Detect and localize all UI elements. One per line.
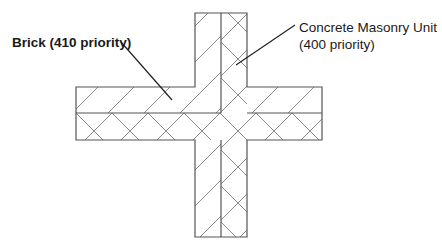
cmu-label-line1: Concrete Masonry Unit	[299, 19, 437, 36]
brick-label: Brick (410 priority)	[12, 34, 131, 51]
cmu-label-line2: (400 priority)	[299, 36, 375, 53]
